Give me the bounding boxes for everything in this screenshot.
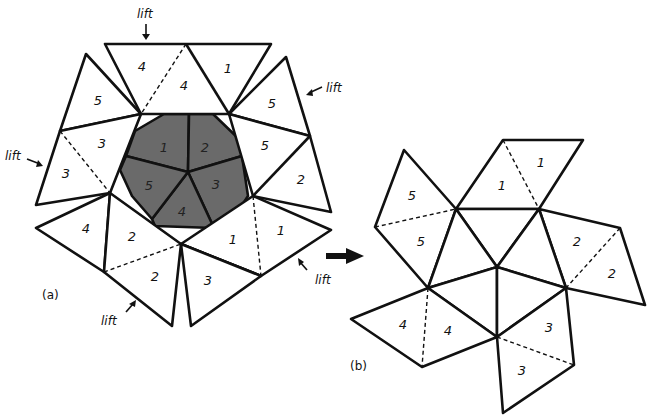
face-label: 5	[261, 138, 269, 153]
face-label: 4	[180, 78, 188, 93]
polyhedron-net-diagram: 4 4 1 5 3 3 5 5 2 4 2 2 1 1 3 1 2 3 4 5 …	[0, 0, 649, 419]
face-label: 2	[573, 234, 581, 249]
panel-b-caption: (b)	[350, 359, 367, 373]
face-label: 3	[62, 166, 70, 181]
face-label: 5	[417, 234, 425, 249]
face-label: 1	[498, 178, 506, 193]
face-label: 2	[128, 229, 136, 244]
face-label: 2	[297, 172, 305, 187]
face-label: 3	[518, 363, 526, 378]
face-label: 4	[399, 317, 407, 332]
lift-label-bottom-left: lift	[101, 314, 118, 328]
right-arrow-icon	[326, 248, 364, 264]
face-label: 3	[98, 136, 106, 151]
face-label: 4	[444, 323, 452, 338]
face-label: 4	[82, 221, 90, 236]
face-label: 5	[268, 96, 276, 111]
panel-a-caption: (a)	[42, 288, 59, 302]
panel-a: 4 4 1 5 3 3 5 5 2 4 2 2 1 1 3 1 2 3 4 5 …	[5, 7, 343, 328]
center-face-label: 4	[178, 204, 186, 219]
face-label: 3	[545, 320, 553, 335]
lift-label-left: lift	[5, 149, 22, 163]
lift-label-right: lift	[326, 81, 343, 95]
lift-label-bottom-right: lift	[315, 273, 332, 287]
face-label: 2	[151, 269, 159, 284]
face-label: 3	[204, 273, 212, 288]
face-label: 1	[537, 155, 545, 170]
center-face-label: 1	[160, 140, 168, 155]
face-label: 1	[224, 61, 232, 76]
face-label: 1	[277, 223, 285, 238]
face-label: 2	[608, 266, 616, 281]
face-label: 5	[94, 93, 102, 108]
center-face-label: 3	[212, 177, 220, 192]
face-label: 4	[138, 59, 146, 74]
face-label: 5	[408, 188, 416, 203]
face-label: 1	[229, 232, 237, 247]
center-face-label: 5	[145, 178, 153, 193]
panel-b: 1 1 5 5 2 2 4 4 3 3 (b)	[350, 140, 645, 413]
center-face-label: 2	[201, 140, 209, 155]
lift-label-top: lift	[137, 7, 154, 21]
